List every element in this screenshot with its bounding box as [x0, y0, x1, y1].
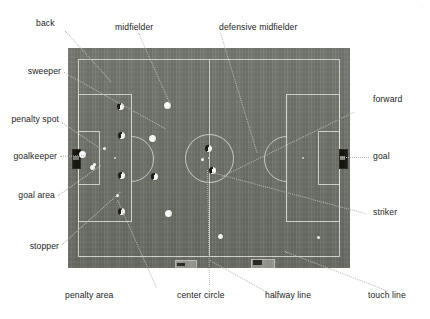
player-defensive-midfielder-a: [205, 145, 212, 152]
player-stopper: [118, 132, 125, 139]
goal-right-net-shade: [340, 156, 345, 160]
corner-mark: …: [419, 2, 426, 8]
label-sweeper: sweeper: [0, 66, 61, 76]
player-defensive-midfielder-b: [209, 167, 216, 174]
goal-area-left: [78, 131, 100, 185]
ball-right-half: [317, 236, 320, 239]
label-penalty-spot: penalty spot: [0, 114, 59, 124]
goal-left-net-shade: [73, 156, 79, 160]
player-midfielder-low: [151, 173, 158, 180]
label-touch-line: touch line: [368, 290, 406, 300]
player-goalkeeper: [79, 151, 86, 158]
ball-box-edge: [116, 194, 119, 197]
label-striker: striker: [373, 207, 397, 217]
bench-away-shade: [253, 260, 262, 265]
penalty-spot-left: [114, 157, 116, 159]
bench-home-shade: [177, 263, 185, 266]
label-goal: goal: [373, 151, 390, 161]
player-back-right: [118, 172, 125, 179]
center-spot: [208, 157, 210, 159]
soccer-field-photo: [68, 48, 350, 268]
label-center-circle: center circle: [177, 290, 225, 300]
player-back-wide: [118, 208, 125, 215]
diagram-canvas: …: [0, 0, 430, 319]
penalty-spot-right: [302, 157, 304, 159]
ball-penalty-spot: [103, 147, 106, 150]
label-goalkeeper: goalkeeper: [0, 151, 57, 161]
label-halfway-line: halfway line: [265, 290, 311, 300]
player-midfielder-wide: [165, 210, 172, 217]
label-stopper: stopper: [0, 241, 59, 251]
label-forward: forward: [373, 94, 402, 104]
goal-area-right: [318, 131, 340, 185]
label-defensive-midfielder: defensive midfielder: [219, 22, 297, 32]
label-goal-area: goal area: [0, 190, 55, 200]
player-midfielder-center: [149, 135, 156, 142]
ball-goal-area: [93, 163, 96, 166]
label-back: back: [36, 18, 55, 28]
ball-center: [201, 158, 204, 161]
player-midfielder-high: [164, 102, 171, 109]
player-forward: [218, 234, 223, 239]
player-back-left: [117, 103, 124, 110]
label-midfielder: midfielder: [115, 22, 153, 32]
label-penalty-area: penalty area: [65, 290, 114, 300]
